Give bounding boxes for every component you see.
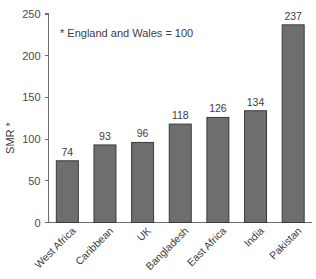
bar-value-label: 74 <box>61 146 73 158</box>
bar <box>94 145 116 223</box>
y-tick-label: 150 <box>22 91 40 103</box>
y-axis-title: SMR * <box>4 121 16 154</box>
bar-chart: 050100150200250 SMR * * England and Wale… <box>0 0 316 279</box>
y-tick-label: 100 <box>22 133 40 145</box>
y-tick-label: 200 <box>22 50 40 62</box>
bar-value-label: 126 <box>209 102 227 114</box>
bar-value-label: 118 <box>172 109 189 121</box>
y-tick-label: 0 <box>34 217 40 229</box>
chart-annotation: * England and Wales = 100 <box>60 27 193 39</box>
bar <box>132 142 154 222</box>
bar <box>56 161 78 223</box>
bar-value-label: 237 <box>284 10 302 22</box>
bar-value-label: 93 <box>99 130 111 142</box>
y-tick-label: 250 <box>22 8 40 20</box>
y-tick-label: 50 <box>28 175 40 187</box>
bar <box>207 117 229 222</box>
bar <box>282 25 304 223</box>
bar <box>245 111 267 223</box>
chart-canvas: 050100150200250 SMR * * England and Wale… <box>0 0 316 279</box>
bar <box>169 124 191 222</box>
bar-value-label: 96 <box>137 127 149 139</box>
bar-value-label: 134 <box>247 96 265 108</box>
